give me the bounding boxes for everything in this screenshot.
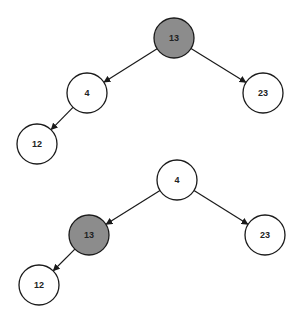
tree-node: 13 (69, 215, 109, 255)
node-label: 13 (169, 33, 179, 43)
tree-node: 4 (157, 160, 197, 200)
node-label: 12 (34, 280, 44, 290)
tree-node: 23 (245, 215, 285, 255)
tree-node: 4 (67, 73, 107, 113)
node-label: 23 (258, 88, 268, 98)
tree-node: 12 (19, 265, 59, 305)
edge-arrow (194, 191, 248, 225)
node-label: 12 (32, 139, 42, 149)
edge-arrow (191, 49, 246, 83)
node-label: 23 (260, 230, 270, 240)
edge-arrow (51, 107, 73, 129)
edge-arrow (54, 249, 75, 270)
tree-node: 12 (17, 124, 57, 164)
tree-after-nodes: 4132312 (19, 160, 285, 305)
node-label: 13 (84, 230, 94, 240)
nodes-layer: 13423124132312 (17, 18, 285, 305)
node-label: 4 (174, 175, 179, 185)
node-label: 4 (84, 88, 89, 98)
edge-arrow (106, 191, 160, 225)
edge-arrow (104, 49, 157, 82)
binary-tree-diagram: 13423124132312 (0, 0, 304, 322)
tree-node: 13 (154, 18, 194, 58)
tree-node: 23 (243, 73, 283, 113)
tree-before-nodes: 1342312 (17, 18, 283, 164)
